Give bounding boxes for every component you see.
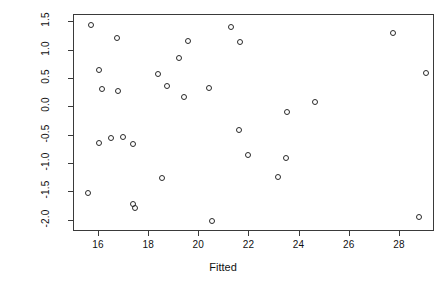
- x-tick-label: 24: [284, 239, 314, 250]
- data-point: [132, 205, 138, 211]
- data-point: [185, 38, 191, 44]
- data-point: [237, 39, 243, 45]
- data-point: [206, 85, 212, 91]
- data-point: [159, 175, 165, 181]
- x-tick-mark: [248, 231, 249, 236]
- x-tick-mark: [349, 231, 350, 236]
- data-point: [312, 99, 318, 105]
- data-point: [115, 88, 121, 94]
- x-tick-label: 28: [384, 239, 414, 250]
- scatter-chart: 16182022242628 1.51.00.50.0-0.5-1.0-1.5-…: [0, 0, 446, 286]
- data-point: [390, 30, 396, 36]
- data-point: [423, 70, 429, 76]
- data-point: [283, 155, 289, 161]
- data-point: [275, 174, 281, 180]
- data-point: [164, 83, 170, 89]
- x-tick-mark: [198, 231, 199, 236]
- data-point: [284, 109, 290, 115]
- data-point: [155, 71, 161, 77]
- data-point: [209, 218, 215, 224]
- data-point: [120, 134, 126, 140]
- data-point: [228, 24, 234, 30]
- data-point: [245, 152, 251, 158]
- x-tick-mark: [299, 231, 300, 236]
- x-tick-label: 26: [334, 239, 364, 250]
- x-tick-label: 22: [233, 239, 263, 250]
- data-point: [130, 141, 136, 147]
- x-tick-label: 20: [183, 239, 213, 250]
- data-point: [114, 35, 120, 41]
- x-tick-mark: [399, 231, 400, 236]
- data-point: [416, 214, 422, 220]
- y-axis-label-wrapper: Standardized residuals: [0, 0, 110, 286]
- data-point: [176, 55, 182, 61]
- data-point: [236, 127, 242, 133]
- x-tick-mark: [148, 231, 149, 236]
- plot-area: [73, 14, 434, 231]
- data-point: [181, 94, 187, 100]
- x-tick-label: 18: [133, 239, 163, 250]
